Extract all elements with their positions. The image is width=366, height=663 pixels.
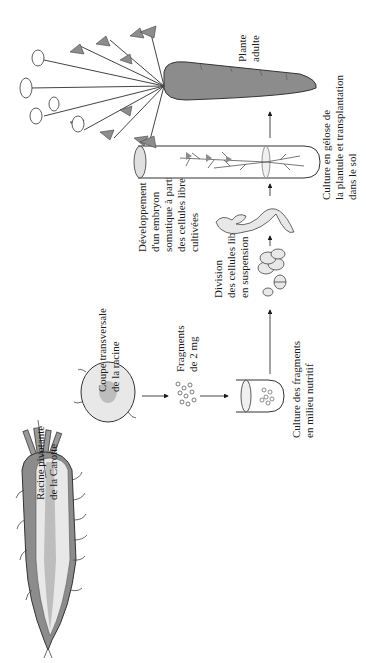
adult-plant-illustration xyxy=(20,26,316,148)
cell-division-illustration xyxy=(258,249,286,296)
fragment-culture-dish xyxy=(236,380,284,412)
somatic-embryo-illustration xyxy=(216,209,294,234)
label-adult-plant: Plante adulte xyxy=(236,32,261,62)
label-somatic-embryo: Développement d'un embryon somatique à p… xyxy=(136,170,200,252)
label-fragments: Fragments de 2 mg xyxy=(174,323,199,372)
carrot-cloning-diagram: Racine pivotante de la Carotte Coupe tra… xyxy=(0,0,366,663)
label-fragment-culture: Culture des fragments en milieu nutritif xyxy=(290,338,315,438)
test-tube-illustration xyxy=(134,146,320,178)
fragments-illustration xyxy=(176,382,196,406)
label-agar-culture: Culture en gélose de la plantule et tran… xyxy=(320,72,358,200)
label-cross-section: Coupe transversale de la racine xyxy=(96,305,121,392)
